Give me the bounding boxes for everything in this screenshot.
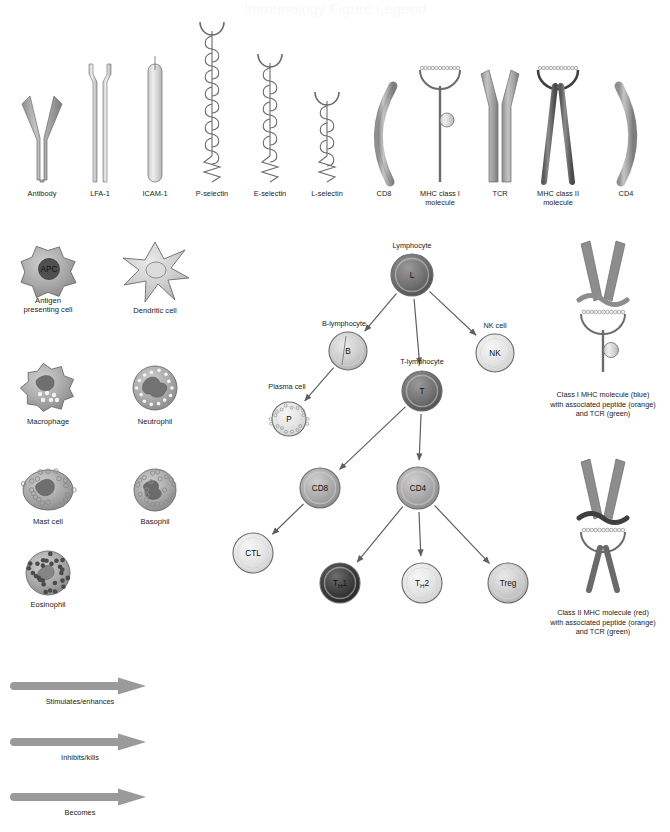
legend-stimulates: Stimulates/enhances xyxy=(10,678,146,707)
cell-dendritic: Dendritic cell xyxy=(123,242,189,315)
lineage-node-text: CTL xyxy=(245,549,261,558)
lineage-arrow xyxy=(419,512,421,556)
lineage-node-cd4-cell: CD4 xyxy=(397,467,439,509)
molecule-label: P-selectin xyxy=(196,189,228,198)
molecule-icam1: ICAM-1 xyxy=(142,56,167,198)
mhc-class-2-complex: Class II MHC molecule (red)with associat… xyxy=(549,459,655,636)
lineage-node-cd8-cell: CD8 xyxy=(300,468,340,508)
molecule-label: molecule xyxy=(543,198,573,207)
lineage-node-text: NK xyxy=(489,349,501,358)
lineage-arrow xyxy=(305,368,334,401)
cell-label: Basophil xyxy=(140,517,169,526)
lineage-node-t-lymphocyte: TT-lymphocyte xyxy=(400,357,443,411)
lineage-arrow xyxy=(272,504,303,534)
legend-arrow xyxy=(10,789,146,806)
molecule-label: Antibody xyxy=(28,189,57,198)
molecule-label: ICAM-1 xyxy=(142,189,167,198)
lineage-node-label: Lymphocyte xyxy=(392,241,431,250)
lineage-node-treg-cell: Treg xyxy=(488,563,528,603)
molecule-l-selectin: L-selectin xyxy=(311,92,343,198)
lineage-node-text: CD8 xyxy=(312,484,329,493)
lineage-node-text: CD4 xyxy=(410,484,427,493)
mhc-class-1-complex: Class I MHC molecule (blue)with associat… xyxy=(549,241,655,418)
complex-caption-line: Class II MHC molecule (red) xyxy=(557,608,649,617)
molecule-cd8: CD8 xyxy=(377,86,393,198)
cell-apc: APCAntigenpresenting cell xyxy=(21,246,76,314)
cell-label: Antigen xyxy=(35,296,61,305)
cell-macrophage: Macrophage xyxy=(20,363,73,426)
lineage-node-text: T xyxy=(419,387,424,396)
figure-title: Immunology Figure Legend xyxy=(244,0,427,17)
legend-becomes: Becomes xyxy=(10,789,146,818)
molecule-mhc2: MHC class IImolecule xyxy=(537,66,579,207)
molecule-label: CD4 xyxy=(619,189,634,198)
legend-label: Becomes xyxy=(65,808,96,817)
legend-arrow xyxy=(10,734,146,751)
lineage-node-b-lymphocyte: BB-lymphocyte xyxy=(322,319,367,370)
cell-label: Eosinophil xyxy=(30,600,65,609)
lineage-node-text: P xyxy=(286,415,292,424)
molecule-label: molecule xyxy=(425,198,455,207)
lineage-node-label: NK cell xyxy=(483,321,506,330)
lineage-node-th1-cell: TH1 xyxy=(320,563,360,603)
lineage-node-text: Treg xyxy=(500,579,517,588)
cell-label: Neutrophil xyxy=(138,417,173,426)
lineage-node-label: Plasma cell xyxy=(268,382,306,391)
legend-inhibits: Inhibits/kills xyxy=(10,734,146,763)
molecule-label: CD8 xyxy=(377,189,392,198)
complex-caption-line: with associated peptide (orange) xyxy=(549,400,655,409)
molecule-mhc1: MHC class Imolecule xyxy=(420,66,460,207)
lineage-arrow xyxy=(340,407,406,470)
cell-eosinophil: Eosinophil xyxy=(26,551,70,609)
apc-inner-label: APC xyxy=(41,265,58,274)
arrow-legend: Stimulates/enhancesInhibits/killsBecomes xyxy=(10,678,146,818)
legend-arrow xyxy=(10,678,146,695)
cell-label: Dendritic cell xyxy=(133,306,177,315)
molecule-label: E-selectin xyxy=(254,189,286,198)
molecule-label: MHC class II xyxy=(537,189,579,198)
diagram-canvas: Immunology Figure Legend AntibodyLFA-1IC… xyxy=(0,0,670,832)
lineage-node-label: B-lymphocyte xyxy=(322,319,366,328)
lineage-edges xyxy=(272,291,489,563)
molecule-lfa1: LFA-1 xyxy=(89,64,111,198)
immunology-key-diagram: Immunology Figure Legend AntibodyLFA-1IC… xyxy=(0,0,670,832)
molecule-label: L-selectin xyxy=(311,189,343,198)
lineage-arrow xyxy=(435,505,490,563)
molecule-antibody: Antibody xyxy=(22,96,62,198)
molecule-e-selectin: E-selectin xyxy=(254,54,286,198)
cell-basophil: Basophil xyxy=(134,469,176,526)
lineage-node-text: B xyxy=(345,347,351,356)
molecule-label: MHC class I xyxy=(420,189,460,198)
lineage-node-nk-cell: NKNK cell xyxy=(476,321,514,372)
molecule-cd4: CD4 xyxy=(619,86,634,198)
lineage-arrow xyxy=(429,291,476,335)
lineage-arrow xyxy=(419,414,421,460)
lineage-nodes: LLymphocyteBB-lymphocyteNKNK cellPPlasma… xyxy=(233,241,528,603)
cell-label: Mast cell xyxy=(33,517,63,526)
cell-label: presenting cell xyxy=(24,305,73,314)
legend-label: Stimulates/enhances xyxy=(46,697,115,706)
molecule-label: TCR xyxy=(492,189,507,198)
lineage-node-plasma-cell: PPlasma cell xyxy=(268,382,309,436)
mhc-complex-panels: Class I MHC molecule (blue)with associat… xyxy=(549,241,655,636)
lineage-arrow xyxy=(414,299,420,364)
molecule-tcr: TCR xyxy=(481,70,519,198)
lineage-node-label: T-lymphocyte xyxy=(400,357,443,366)
molecule-label: LFA-1 xyxy=(90,189,110,198)
legend-label: Inhibits/kills xyxy=(61,753,99,762)
lineage-node-text: L xyxy=(410,271,415,280)
cell-neutrophil: Neutrophil xyxy=(133,366,177,426)
cell-mastcell: Mast cell xyxy=(21,469,76,526)
complex-caption-line: and TCR (green) xyxy=(576,627,631,636)
lineage-node-th2-cell: TH2 xyxy=(402,563,442,603)
complex-caption-line: with associated peptide (orange) xyxy=(549,618,655,627)
molecule-key-row: AntibodyLFA-1ICAM-1P-selectinE-selectinL… xyxy=(22,22,633,207)
lineage-arrow xyxy=(365,293,397,331)
lineage-node-lymphocyte: LLymphocyte xyxy=(391,241,433,296)
lineage-arrow xyxy=(357,507,403,563)
cell-label: Macrophage xyxy=(27,417,69,426)
molecule-p-selectin: P-selectin xyxy=(196,22,228,198)
cell-type-key: APCAntigenpresenting cellDendritic cellM… xyxy=(20,242,189,609)
complex-caption-line: and TCR (green) xyxy=(576,409,631,418)
complex-caption-line: Class I MHC molecule (blue) xyxy=(557,390,650,399)
